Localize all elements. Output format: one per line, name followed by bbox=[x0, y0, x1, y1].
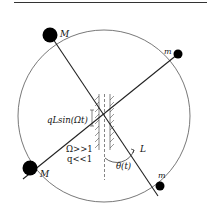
label-length: L bbox=[140, 145, 146, 154]
pivot-guide-rails bbox=[90, 94, 114, 180]
label-m-top: m bbox=[164, 48, 172, 56]
label-M-bottom: M bbox=[40, 170, 49, 179]
label-pivot-oscillation: qLsin(Ωt) bbox=[47, 116, 88, 125]
pendulum-diagram bbox=[0, 0, 207, 217]
angle-arrow-icon bbox=[131, 149, 134, 153]
mass-m-bottom bbox=[156, 182, 165, 191]
label-q-condition: q<<1 bbox=[67, 155, 92, 164]
mass-M-top bbox=[43, 28, 58, 43]
mass-M-bottom bbox=[23, 161, 38, 176]
label-M-top: M bbox=[60, 30, 69, 39]
label-m-bottom: m bbox=[158, 172, 166, 180]
label-angle: θ(t) bbox=[116, 162, 131, 171]
mass-m-top bbox=[174, 50, 183, 59]
label-omega-condition: Ω>>1 bbox=[66, 145, 93, 154]
